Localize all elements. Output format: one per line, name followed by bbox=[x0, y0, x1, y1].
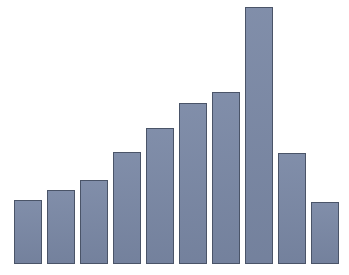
bar-7 bbox=[212, 92, 240, 264]
bar-8 bbox=[245, 7, 273, 264]
bar-2 bbox=[47, 190, 75, 264]
bar-6 bbox=[179, 103, 207, 264]
plot-area bbox=[0, 0, 349, 275]
bar-9 bbox=[278, 153, 306, 264]
bar-4 bbox=[113, 152, 141, 264]
bar-5 bbox=[146, 128, 174, 264]
bar-chart-figure bbox=[0, 0, 349, 275]
bar-3 bbox=[80, 180, 108, 264]
bar-1 bbox=[14, 200, 42, 264]
bar-10 bbox=[311, 202, 339, 264]
